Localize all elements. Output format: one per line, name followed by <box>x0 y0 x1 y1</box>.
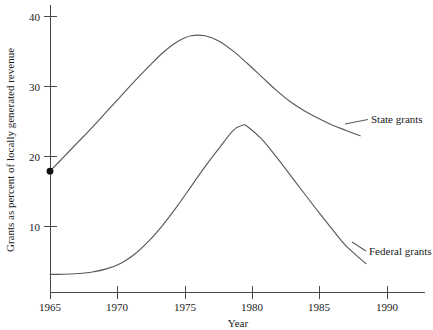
x-tick-label-1975: 1975 <box>174 301 197 313</box>
x-axis-title: Year <box>228 317 249 329</box>
start-marker-dot <box>47 168 54 175</box>
y-tick-label-20: 20 <box>29 151 41 163</box>
series-line-federal-grants <box>50 125 366 275</box>
x-tick-label-1970: 1970 <box>106 301 129 313</box>
series-label-state-grants: State grants <box>371 113 423 125</box>
x-tick-label-1985: 1985 <box>308 301 331 313</box>
y-axis-title: Grants as percent of locally generated r… <box>4 48 16 252</box>
y-tick-label-10: 10 <box>29 221 41 233</box>
x-tick-label-1990: 1990 <box>376 301 399 313</box>
state-grants-leader-line <box>345 120 368 125</box>
x-tick-label-1980: 1980 <box>241 301 264 313</box>
x-tick-label-1965: 1965 <box>39 301 62 313</box>
y-tick-label-30: 30 <box>29 81 41 93</box>
chart-container: 40 30 20 10 1965 1970 1975 1980 1985 199… <box>0 0 433 330</box>
series-label-federal-grants: Federal grants <box>369 245 432 257</box>
series-line-state-grants <box>50 35 360 171</box>
federal-grants-leader-line <box>352 242 366 251</box>
y-tick-label-40: 40 <box>29 11 41 23</box>
line-chart: 40 30 20 10 1965 1970 1975 1980 1985 199… <box>0 0 433 330</box>
